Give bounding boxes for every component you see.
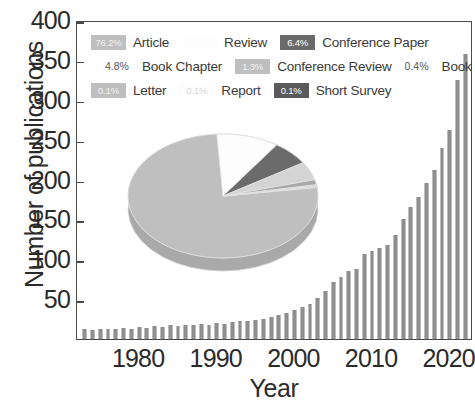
bar: [339, 277, 344, 339]
bar: [393, 235, 398, 339]
bar: [176, 326, 181, 339]
legend-swatch: [182, 35, 217, 50]
bar: [370, 251, 375, 339]
legend-item: 0.1%Report: [179, 83, 273, 98]
legend-label: Article: [133, 35, 169, 50]
bar: [168, 325, 173, 339]
bar: [346, 271, 351, 339]
legend-label: Review: [224, 35, 267, 50]
x-tick-label: 1990: [190, 346, 242, 371]
bar: [121, 328, 126, 339]
bar: [253, 320, 258, 339]
bar: [455, 80, 460, 339]
bar: [308, 304, 313, 339]
pie-svg: [123, 130, 355, 272]
bar: [144, 328, 149, 339]
bar: [82, 329, 87, 339]
y-tick-label: 300: [12, 88, 70, 113]
bar: [331, 282, 336, 339]
bar: [129, 329, 134, 339]
legend-swatch: 4.8%: [105, 59, 135, 74]
x-tick-label: 2010: [345, 346, 397, 371]
bar: [284, 313, 289, 339]
legend-item: 6.4%Conference Paper: [280, 35, 441, 50]
y-tick-label: 50: [12, 287, 70, 312]
legend-item: 4.8%Book Chapter: [105, 59, 235, 74]
bar: [362, 254, 367, 339]
legend-swatch: 1.3%: [235, 59, 270, 74]
bar: [440, 148, 445, 339]
y-tick-label: 100: [12, 247, 70, 272]
legend-label: Book Chapter: [142, 59, 222, 74]
legend-item: 76.2%Article: [91, 35, 182, 50]
bar: [354, 269, 359, 339]
bar: [377, 248, 382, 339]
document-type-legend: 76.2%ArticleReview6.4%Conference Paper4.…: [91, 30, 471, 102]
legend-row: 76.2%ArticleReview6.4%Conference Paper: [91, 30, 471, 54]
bar: [137, 327, 142, 339]
bar: [416, 197, 421, 339]
bar: [447, 130, 452, 339]
legend-swatch: 76.2%: [91, 35, 126, 50]
x-tick-label: 1980: [112, 346, 164, 371]
legend-row: 0.1%Letter0.1%Report0.1%Short Survey: [91, 78, 471, 102]
legend-swatch: 0.4%: [405, 59, 435, 74]
legend-item: 0.4%Book: [405, 59, 472, 74]
bar: [292, 310, 297, 339]
bar: [315, 298, 320, 339]
bar: [401, 219, 406, 339]
x-tick-label: 2000: [267, 346, 319, 371]
legend-row: 4.8%Book Chapter1.3%Conference Review0.4…: [91, 54, 471, 78]
bar: [408, 207, 413, 339]
legend-item: Review: [182, 35, 280, 50]
bar: [432, 170, 437, 339]
legend-label: Short Survey: [316, 83, 392, 98]
legend-swatch: 6.4%: [280, 35, 315, 50]
bar: [199, 324, 204, 339]
legend-label: Letter: [133, 83, 166, 98]
plot-area: 76.2%ArticleReview6.4%Conference Paper4.…: [76, 21, 472, 340]
legend-item: 0.1%Letter: [91, 83, 179, 98]
bar: [424, 183, 429, 339]
legend-item: 0.1%Short Survey: [274, 83, 405, 98]
y-tick-label: 400: [12, 8, 70, 33]
y-tick-label: 350: [12, 48, 70, 73]
bar: [300, 307, 305, 339]
bar: [323, 291, 328, 339]
bar: [214, 323, 219, 339]
document-type-pie-chart: [123, 130, 355, 272]
bar: [222, 324, 227, 339]
y-axis-tick-labels: 40035030025020015010050: [6, 0, 70, 342]
y-tick-label: 250: [12, 128, 70, 153]
bar: [385, 245, 390, 339]
legend-label: Report: [221, 83, 260, 98]
bar: [183, 325, 188, 339]
bar: [269, 317, 274, 339]
bar: [245, 321, 250, 339]
bar: [238, 321, 243, 339]
x-axis-tick-labels: 19801990200020102020: [76, 344, 472, 374]
legend-item: 1.3%Conference Review: [235, 59, 404, 74]
x-tick-label: 2020: [422, 346, 474, 371]
bar: [230, 322, 235, 339]
bar: [113, 329, 118, 339]
bar: [261, 319, 266, 339]
bar: [191, 325, 196, 339]
bar: [98, 329, 103, 339]
publications-bar-chart-figure: Number of publications 40035030025020015…: [0, 0, 475, 402]
bar: [276, 315, 281, 339]
legend-label: Conference Paper: [322, 35, 428, 50]
y-tick-label: 150: [12, 207, 70, 232]
legend-swatch: 0.1%: [91, 83, 126, 98]
legend-label: Conference Review: [277, 59, 391, 74]
y-tick-label: 200: [12, 168, 70, 193]
legend-label: Book: [442, 59, 472, 74]
legend-swatch: 0.1%: [274, 83, 309, 98]
bar: [160, 327, 165, 339]
bar: [207, 325, 212, 339]
bar: [106, 329, 111, 339]
bar: [152, 326, 157, 339]
x-axis-title: Year: [76, 374, 472, 402]
bar: [90, 330, 95, 339]
legend-swatch: 0.1%: [179, 83, 214, 98]
